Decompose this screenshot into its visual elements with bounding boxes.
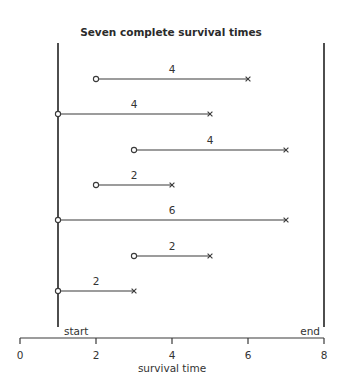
survival-line-3: 4 — [131, 134, 288, 153]
entry-circle-icon — [55, 217, 60, 222]
entry-circle-icon — [55, 288, 60, 293]
x-axis-ticks: 02468 — [17, 338, 328, 361]
x-axis: 02468 survival time — [17, 338, 328, 374]
entry-circle-icon — [131, 253, 136, 258]
duration-label: 4 — [131, 98, 138, 110]
duration-label: 6 — [169, 204, 176, 216]
survival-line-4: 2 — [93, 169, 174, 188]
x-tick-label: 8 — [321, 349, 328, 361]
start-label: start — [64, 325, 88, 337]
entry-circle-icon — [93, 76, 98, 81]
chart-title: Seven complete survival times — [80, 26, 262, 38]
x-tick-label: 0 — [17, 349, 24, 361]
entry-circle-icon — [93, 182, 98, 187]
end-label: end — [300, 325, 320, 337]
duration-label: 4 — [207, 134, 214, 146]
entry-circle-icon — [55, 111, 60, 116]
survival-line-1: 4 — [93, 63, 250, 82]
reference-lines: startend — [58, 43, 324, 337]
entry-circle-icon — [131, 147, 136, 152]
survival-line-6: 2 — [131, 240, 212, 259]
duration-label: 2 — [169, 240, 176, 252]
duration-label: 4 — [169, 63, 176, 75]
x-tick-label: 4 — [169, 349, 176, 361]
survival-line-2: 4 — [55, 98, 212, 117]
survival-chart: Seven complete survival times startend 4… — [0, 0, 343, 390]
duration-label: 2 — [93, 275, 100, 287]
x-axis-label: survival time — [138, 362, 206, 374]
x-tick-label: 6 — [245, 349, 252, 361]
survival-line-5: 6 — [55, 204, 288, 223]
survival-lines: 4442622 — [55, 63, 288, 294]
duration-label: 2 — [131, 169, 138, 181]
x-tick-label: 2 — [93, 349, 100, 361]
survival-line-7: 2 — [55, 275, 136, 294]
